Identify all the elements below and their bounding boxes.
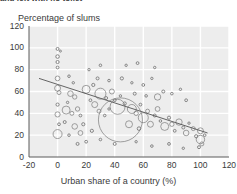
y-tick-label: 20 — [2, 130, 24, 140]
y-tick-label: 100 — [2, 42, 24, 52]
y-tick-label: 60 — [2, 86, 24, 96]
x-tick-label: 100 — [188, 160, 212, 170]
x-tick-label: 80 — [160, 160, 184, 170]
x-tick-label: 60 — [131, 160, 155, 170]
x-tick-label: -20 — [17, 160, 41, 170]
x-tick-label: 0 — [46, 160, 70, 170]
y-tick-label: 40 — [2, 108, 24, 118]
chart-container: and left with no toilet Percentage of sl… — [0, 0, 237, 194]
x-tick-label: 120 — [217, 160, 237, 170]
y-tick-label: 80 — [2, 64, 24, 74]
x-tick-label: 40 — [103, 160, 127, 170]
y-tick-label: 120 — [2, 21, 24, 31]
x-axis-title: Urban share of a country (%) — [0, 176, 237, 186]
x-tick-label: 20 — [74, 160, 98, 170]
